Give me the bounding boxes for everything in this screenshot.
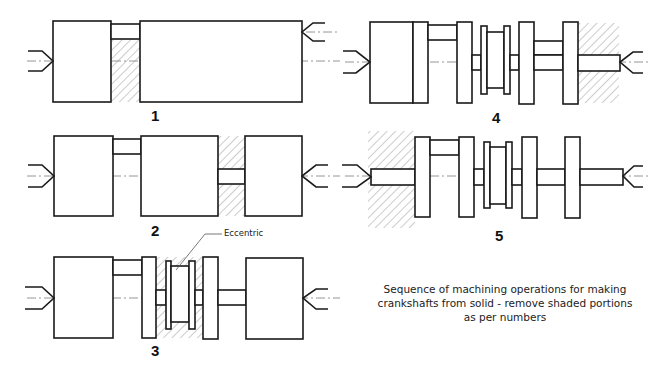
eccentric-web <box>504 26 510 94</box>
step-number-2: 2 <box>151 222 159 239</box>
eccentric-pin <box>490 147 506 204</box>
step-number-1: 1 <box>151 107 159 124</box>
step-5-figure <box>342 131 650 228</box>
end-shaft <box>371 169 415 185</box>
journal <box>512 169 522 185</box>
journal <box>195 290 203 305</box>
journal <box>156 290 166 305</box>
end-shaft <box>580 169 623 185</box>
crank-pin <box>113 139 141 154</box>
journal <box>472 55 481 70</box>
eccentric-web <box>481 26 487 94</box>
step-2-figure <box>27 136 340 216</box>
journal <box>510 55 519 70</box>
left-block <box>53 21 111 102</box>
eccentric-label: Eccentric <box>224 228 264 238</box>
eccentric-web <box>506 142 512 208</box>
web <box>415 137 430 217</box>
step-4-figure <box>343 22 650 104</box>
web <box>413 22 428 103</box>
web <box>142 257 156 338</box>
caption-line-2: crankshafts from solid - remove shaded p… <box>370 296 640 310</box>
web <box>522 137 537 218</box>
right-block <box>246 258 303 339</box>
crank-pin <box>111 24 140 39</box>
crank-pin <box>428 25 457 40</box>
end-shaft <box>578 55 620 71</box>
lathe-center-right <box>620 52 643 73</box>
web <box>565 137 580 218</box>
web <box>563 22 578 104</box>
step-1-figure <box>27 21 340 102</box>
figure-caption: Sequence of machining operations for mak… <box>370 282 640 324</box>
journal <box>537 169 565 185</box>
crank-pin <box>430 140 459 155</box>
lathe-center-right <box>303 289 328 309</box>
journal <box>534 55 563 70</box>
eccentric-pin <box>171 266 189 322</box>
right-block <box>140 21 302 102</box>
step-3-figure <box>25 234 340 339</box>
caption-line-3: as per numbers <box>370 310 640 324</box>
step-number-4: 4 <box>492 109 501 126</box>
caption-line-1: Sequence of machining operations for mak… <box>370 282 640 296</box>
crank-pin <box>113 260 142 275</box>
lathe-center-right <box>623 166 643 187</box>
right-block <box>245 136 302 216</box>
eccentric-web <box>189 261 195 329</box>
shaded-removal-region <box>112 39 140 102</box>
web <box>457 22 472 103</box>
web <box>459 137 474 217</box>
journal <box>218 290 246 305</box>
middle-block <box>141 136 218 216</box>
journal <box>474 169 484 185</box>
crank-pin <box>534 41 563 55</box>
left-block <box>54 136 113 216</box>
left-block <box>54 257 113 338</box>
web <box>203 257 218 339</box>
step-number-5: 5 <box>495 227 503 244</box>
left-block <box>370 22 413 103</box>
step-number-3: 3 <box>151 342 159 359</box>
eccentric-web <box>484 142 490 208</box>
web <box>519 22 534 104</box>
journal <box>218 169 245 184</box>
eccentric-pin <box>487 32 504 88</box>
